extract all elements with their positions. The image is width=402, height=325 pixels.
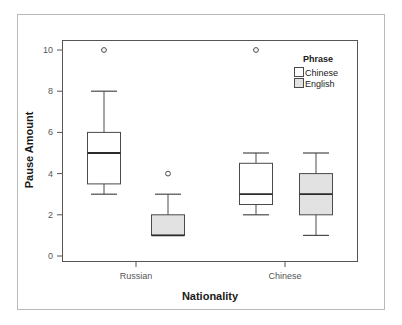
y-tick-label-0: 0	[48, 251, 53, 261]
y-tick-2: 2	[48, 210, 62, 220]
y-tick-8: 8	[48, 86, 62, 96]
legend-item-chinese[interactable]: Chinese	[295, 68, 339, 79]
legend-swatch-chinese	[295, 68, 304, 77]
legend-label-chinese: Chinese	[305, 68, 338, 78]
y-tick-label-10: 10	[43, 45, 53, 55]
x-tick-label-chinese: Chinese	[268, 271, 301, 281]
outlier-point	[102, 48, 107, 53]
legend: Phrase Chinese English	[295, 54, 339, 89]
x-tick-russian: Russian	[120, 262, 153, 281]
y-tick-label-4: 4	[48, 169, 53, 179]
legend-title: Phrase	[303, 54, 333, 64]
box-chinese-english[interactable]	[300, 153, 333, 235]
y-tick-0: 0	[48, 251, 62, 261]
x-tick-chinese: Chinese	[268, 262, 301, 281]
legend-label-english: English	[305, 79, 335, 89]
box-body	[88, 132, 121, 184]
y-tick-label-2: 2	[48, 210, 53, 220]
y-tick-label-6: 6	[48, 127, 53, 137]
legend-item-english[interactable]: English	[295, 79, 335, 90]
y-axis: 0 2 4 6 8 10	[43, 45, 62, 261]
x-tick-label-russian: Russian	[120, 271, 153, 281]
x-axis: Russian Chinese	[120, 262, 302, 281]
box-russian-chinese[interactable]	[88, 48, 121, 195]
outlier-point	[166, 171, 171, 176]
y-tick-4: 4	[48, 169, 62, 179]
legend-swatch-english	[295, 79, 304, 88]
y-axis-title: Pause Amount	[23, 111, 35, 188]
boxplot-canvas: 0 2 4 6 8 10 Pause Amou	[0, 0, 402, 325]
box-body	[152, 215, 185, 236]
box-russian-english[interactable]	[152, 171, 185, 235]
box-body	[240, 163, 273, 204]
y-tick-6: 6	[48, 127, 62, 137]
boxplot-figure: 0 2 4 6 8 10 Pause Amou	[0, 0, 402, 325]
y-tick-10: 10	[43, 45, 62, 55]
x-axis-title: Nationality	[182, 290, 239, 302]
box-chinese-chinese[interactable]	[240, 48, 273, 215]
outlier-point	[254, 48, 259, 53]
y-tick-label-8: 8	[48, 86, 53, 96]
